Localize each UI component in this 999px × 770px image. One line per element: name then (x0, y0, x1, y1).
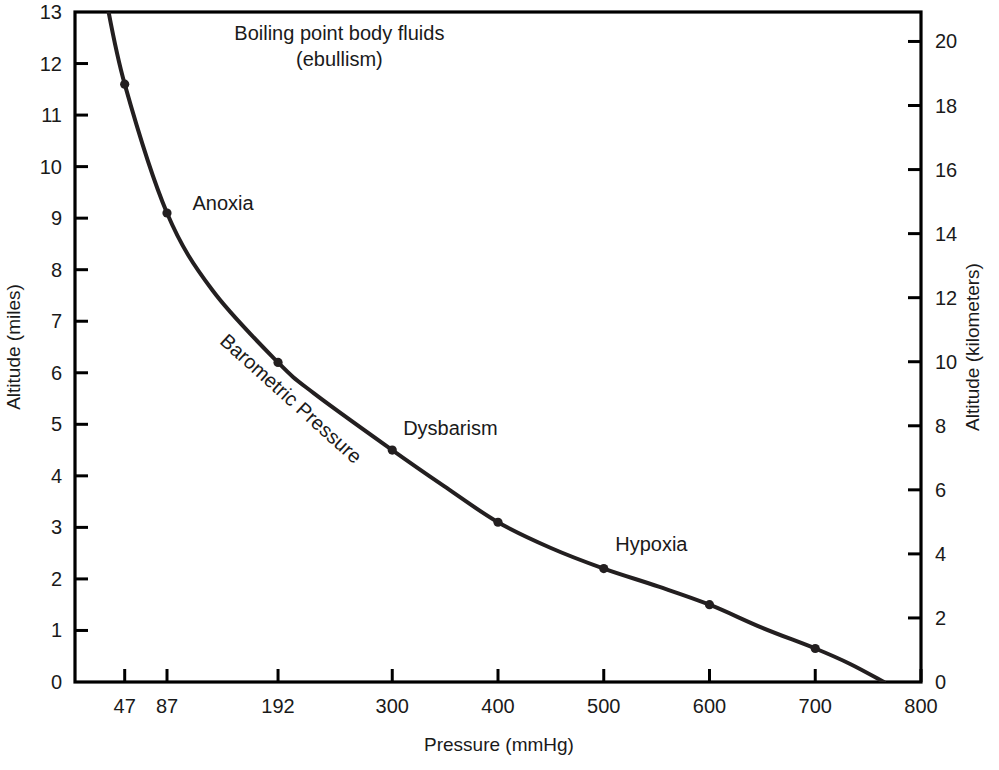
y2-tick-label: 0 (935, 671, 946, 693)
y-tick-label: 3 (51, 516, 62, 538)
annotation-hypoxia: Hypoxia (615, 533, 688, 555)
x-tick-label: 300 (376, 695, 409, 717)
data-point-marker (162, 208, 171, 217)
y-tick-label: 0 (51, 671, 62, 693)
annotation-dysbarism: Dysbarism (403, 417, 497, 439)
data-point-marker (493, 518, 502, 527)
x-axis-title: Pressure (mmHg) (424, 734, 574, 755)
x-tick-label: 47 (114, 695, 136, 717)
y2-tick-label: 12 (935, 287, 957, 309)
y-tick-label: 6 (51, 362, 62, 384)
x-tick-label: 400 (481, 695, 514, 717)
x-tick-label: 800 (904, 695, 937, 717)
x-tick-label: 500 (587, 695, 620, 717)
chart-background (0, 0, 999, 770)
x-tick-label: 87 (156, 695, 178, 717)
y-tick-label: 2 (51, 568, 62, 590)
chart-canvas: 4787192300400500600700800 01234567891011… (0, 0, 999, 770)
data-point-marker (599, 564, 608, 573)
y-tick-label: 7 (51, 310, 62, 332)
y2-tick-label: 8 (935, 415, 946, 437)
y-tick-label: 1 (51, 619, 62, 641)
y2-axis-title: Altitude (kilometers) (962, 263, 983, 431)
data-point-marker (120, 80, 129, 89)
annotation-anoxia: Anoxia (192, 192, 254, 214)
y-tick-label: 10 (40, 156, 62, 178)
annotation-line: (ebullism) (296, 48, 383, 70)
y-axis-title: Altitude (miles) (3, 284, 24, 410)
y-tick-label: 4 (51, 465, 62, 487)
y2-tick-label: 18 (935, 95, 957, 117)
y-tick-label: 11 (41, 104, 62, 126)
x-tick-label: 192 (261, 695, 294, 717)
data-point-marker (811, 644, 820, 653)
annotation-line: Hypoxia (615, 533, 688, 555)
y2-tick-label: 16 (935, 159, 957, 181)
y2-tick-label: 4 (935, 543, 946, 565)
y2-tick-label: 14 (935, 223, 957, 245)
data-point-marker (388, 445, 397, 454)
y-tick-label: 5 (51, 413, 62, 435)
y2-tick-label: 2 (935, 607, 946, 629)
y-tick-label: 13 (40, 1, 62, 23)
annotation-line: Boiling point body fluids (234, 22, 444, 44)
y-tick-label: 12 (40, 53, 62, 75)
x-tick-label: 600 (693, 695, 726, 717)
data-point-marker (273, 358, 282, 367)
y2-tick-label: 10 (935, 351, 957, 373)
y-tick-label: 9 (51, 207, 62, 229)
y2-tick-label: 6 (935, 479, 946, 501)
y-tick-label: 8 (51, 259, 62, 281)
annotation-line: Dysbarism (403, 417, 497, 439)
data-point-marker (705, 600, 714, 609)
y2-tick-label: 20 (935, 30, 957, 52)
x-tick-label: 700 (799, 695, 832, 717)
barometric-pressure-altitude-chart: 4787192300400500600700800 01234567891011… (0, 0, 999, 770)
annotation-line: Anoxia (192, 192, 254, 214)
